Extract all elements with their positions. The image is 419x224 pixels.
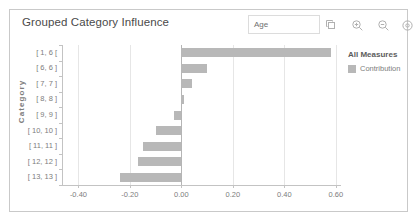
y-tick <box>59 92 63 93</box>
x-tick-label: 0.60 <box>316 190 356 199</box>
chart-panel: Grouped Category Influence Age <box>9 9 408 212</box>
x-tick <box>181 185 182 188</box>
plot-region <box>63 45 341 185</box>
x-tick-label: -0.40 <box>58 190 98 199</box>
dimension-field-value: Age <box>254 20 268 29</box>
x-tick-label: -0.20 <box>110 190 150 199</box>
settings-icon[interactable] <box>398 16 416 34</box>
y-tick <box>59 123 63 124</box>
bar[interactable] <box>174 111 182 120</box>
bar[interactable] <box>138 157 182 166</box>
bar[interactable] <box>181 48 330 57</box>
x-tick <box>233 185 234 188</box>
y-tick <box>59 154 63 155</box>
zoom-in-icon[interactable] <box>348 16 366 34</box>
legend: All Measures Contribution <box>348 50 408 73</box>
gridline <box>336 45 337 185</box>
panel-header: Grouped Category Influence Age <box>10 10 407 39</box>
legend-item-label: Contribution <box>360 64 400 73</box>
y-tick <box>59 61 63 62</box>
x-tick <box>284 185 285 188</box>
bar[interactable] <box>181 64 207 73</box>
y-tick <box>59 76 63 77</box>
legend-entries: Contribution <box>348 64 408 73</box>
legend-item[interactable]: Contribution <box>348 64 408 73</box>
x-tick <box>336 185 337 188</box>
x-tick <box>78 185 79 188</box>
bar[interactable] <box>120 173 182 182</box>
y-tick <box>59 45 63 46</box>
legend-title: All Measures <box>348 50 408 59</box>
x-tick-label: 0.20 <box>213 190 253 199</box>
x-axis-line <box>63 185 341 186</box>
y-tick <box>59 138 63 139</box>
y-tick-label: [ 7, 7 ] <box>11 79 57 88</box>
y-tick-label: [ 6, 6 ] <box>11 63 57 72</box>
y-tick-label: [ 8, 8 ] <box>11 94 57 103</box>
y-axis-labels: [ 1, 6 [[ 6, 6 ][ 7, 7 ][ 8, 8 ][ 9, 9 ]… <box>10 45 57 185</box>
y-tick-label: [ 10, 10 ] <box>11 126 57 135</box>
bar[interactable] <box>143 142 182 151</box>
bar[interactable] <box>181 79 191 88</box>
y-tick-label: [ 11, 11 ] <box>11 141 57 150</box>
y-tick-label: [ 9, 9 ] <box>11 110 57 119</box>
legend-swatch <box>348 65 356 73</box>
gridline <box>130 45 131 185</box>
y-tick-label: [ 1, 6 [ <box>11 48 57 57</box>
page-title: Grouped Category Influence <box>22 16 169 28</box>
x-tick-label: 0.40 <box>264 190 304 199</box>
gridline <box>78 45 79 185</box>
y-tick-label: [ 12, 12 ] <box>11 157 57 166</box>
y-tick-label: [ 13, 13 ] <box>11 172 57 181</box>
y-tick <box>59 169 63 170</box>
y-tick <box>59 107 63 108</box>
x-tick-label: 0.00 <box>161 190 201 199</box>
y-tick <box>59 185 63 186</box>
gridline <box>233 45 234 185</box>
dimension-field[interactable]: Age <box>248 15 320 34</box>
duplicate-icon[interactable] <box>322 16 340 34</box>
zoom-out-icon[interactable] <box>374 16 392 34</box>
x-tick <box>130 185 131 188</box>
gridline <box>284 45 285 185</box>
bar[interactable] <box>181 95 184 104</box>
bar[interactable] <box>156 126 182 135</box>
